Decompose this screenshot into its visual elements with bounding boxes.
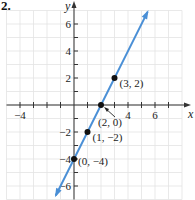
point-label: (2, 0) [98, 116, 122, 129]
axes: xy [7, 0, 195, 200]
y-axis-arrow-icon [72, 1, 77, 8]
data-point [98, 102, 104, 108]
y-tick-label: 4 [66, 45, 72, 57]
data-point [112, 75, 118, 81]
data-point [71, 156, 77, 162]
line-arrow-up-icon [142, 10, 149, 19]
y-tick-label: 6 [66, 18, 72, 30]
point-label: (0, −4) [78, 155, 108, 168]
x-tick-label: 6 [152, 109, 158, 121]
x-tick-label: −4 [14, 109, 26, 121]
point-label: (3, 2) [120, 77, 144, 90]
data-points: (0, −4)(1, −2)(2, 0)(3, 2) [71, 75, 144, 168]
y-tick-label: −4 [59, 153, 71, 165]
point-label: (1, −2) [93, 131, 123, 144]
x-axis-label: x [187, 107, 194, 121]
y-tick-label: 2 [66, 72, 72, 84]
y-tick-label: −2 [59, 126, 71, 138]
coordinate-plane: xy −446642−2−4−6 (0, −4)(1, −2)(2, 0)(3,… [0, 0, 194, 200]
y-axis-label: y [64, 0, 71, 13]
data-point [85, 129, 91, 135]
x-tick-label: 4 [125, 109, 131, 121]
